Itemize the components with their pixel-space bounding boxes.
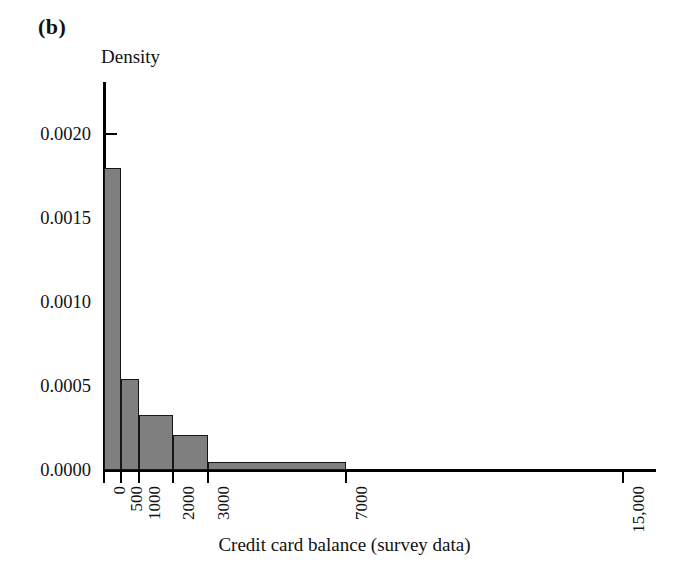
- x-tick-label: 0: [111, 486, 128, 495]
- y-tick-label: 0.0000: [7, 461, 91, 480]
- x-tick-mark: [103, 470, 105, 483]
- x-tick-mark: [207, 470, 209, 483]
- y-axis-title: Density: [101, 46, 160, 68]
- histogram-figure: (b) Density 0.00000.00050.00100.00150.00…: [0, 0, 689, 584]
- x-tick-label: 2000: [180, 486, 197, 520]
- histogram-bar: [104, 168, 121, 470]
- y-tick-label: 0.0015: [7, 209, 91, 228]
- y-tick-mark: [104, 469, 117, 471]
- histogram-bar: [208, 462, 346, 470]
- x-tick-mark: [138, 470, 140, 483]
- panel-label: (b): [38, 14, 66, 40]
- x-tick-label: 15,000: [630, 486, 647, 533]
- x-tick-mark: [345, 470, 347, 483]
- x-tick-label: 1000: [146, 486, 163, 520]
- x-axis-title: Credit card balance (survey data): [0, 534, 689, 556]
- plot-area: 0.00000.00050.00100.00150.0020 050010002…: [0, 0, 689, 584]
- x-axis-line: [103, 469, 656, 472]
- x-tick-mark: [622, 470, 624, 483]
- x-tick-label: 3000: [215, 486, 232, 520]
- histogram-bar: [139, 415, 174, 470]
- y-tick-mark: [104, 301, 117, 303]
- y-axis-line: [103, 82, 106, 471]
- x-tick-label: 7000: [353, 486, 370, 520]
- histogram-bar: [173, 435, 208, 470]
- histogram-bar: [121, 379, 138, 470]
- y-tick-mark: [104, 133, 117, 135]
- y-tick-label: 0.0010: [7, 293, 91, 312]
- y-tick-mark: [104, 217, 117, 219]
- y-tick-label: 0.0005: [7, 377, 91, 396]
- x-tick-mark: [120, 470, 122, 483]
- x-tick-mark: [172, 470, 174, 483]
- y-tick-label: 0.0020: [7, 125, 91, 144]
- x-tick-label: 500: [128, 486, 145, 512]
- y-tick-mark: [104, 385, 117, 387]
